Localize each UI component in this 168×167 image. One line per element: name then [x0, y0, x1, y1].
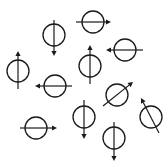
arrowhead-left-icon	[106, 47, 111, 52]
circle-arrow-symbol	[35, 75, 72, 97]
circle-arrow-symbol	[79, 45, 101, 84]
arrowhead-down-icon	[81, 134, 86, 139]
arrowhead-up-icon	[15, 51, 20, 56]
circle-arrow-symbol	[103, 82, 133, 106]
circle-arrow-symbol	[20, 117, 57, 139]
diagram-canvas	[0, 0, 168, 167]
circle-arrow-symbol	[140, 98, 162, 133]
circle-arrow-symbol	[76, 11, 111, 33]
circle-arrow-symbol	[103, 122, 125, 161]
circle-arrow-symbol	[7, 51, 29, 89]
dipole-symbols-diagram	[0, 0, 168, 167]
circle-arrow-symbol	[43, 20, 65, 56]
circle-arrow-symbol	[106, 39, 143, 61]
arrowhead-down-icon	[111, 156, 116, 161]
arrowhead-right-icon	[106, 19, 111, 24]
arrowhead-up-icon	[87, 45, 92, 50]
arrowhead-right-icon	[52, 125, 57, 130]
arrowhead-left-icon	[35, 83, 40, 88]
circle-arrow-symbol	[73, 100, 95, 139]
arrowhead-down-icon	[51, 51, 56, 56]
